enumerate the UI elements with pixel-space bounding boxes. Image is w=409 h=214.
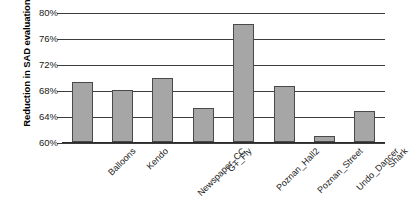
gridline (62, 143, 385, 144)
plot-area (62, 13, 385, 143)
bars-group (62, 13, 385, 143)
bar[interactable] (354, 111, 375, 142)
x-axis-category-label: Kendo (144, 146, 169, 171)
bar[interactable] (112, 90, 133, 142)
y-axis-tick-labels: 80%76%72%68%64%60% (20, 0, 58, 214)
bar[interactable] (152, 78, 173, 142)
bar[interactable] (274, 86, 295, 142)
x-axis-line (62, 142, 385, 144)
bar[interactable] (233, 24, 254, 142)
y-axis-tick-label: 64% (24, 112, 58, 122)
y-axis-tick-label: 76% (24, 34, 58, 44)
y-axis-tick-label: 80% (24, 8, 58, 18)
x-axis-category-label: Poznan_Hall2 (274, 146, 321, 193)
y-axis-tick-label: 60% (24, 138, 58, 148)
y-axis-tick-label: 68% (24, 86, 58, 96)
y-axis-tick-label: 72% (24, 60, 58, 70)
bar[interactable] (193, 108, 214, 142)
y-axis-tick-mark (57, 143, 62, 144)
bar[interactable] (72, 82, 93, 142)
x-axis-category-label: Balloons (106, 146, 137, 177)
x-axis-category-labels: BalloonsKendoNewspaper_CCGT_FlyPoznan_Ha… (62, 146, 385, 214)
